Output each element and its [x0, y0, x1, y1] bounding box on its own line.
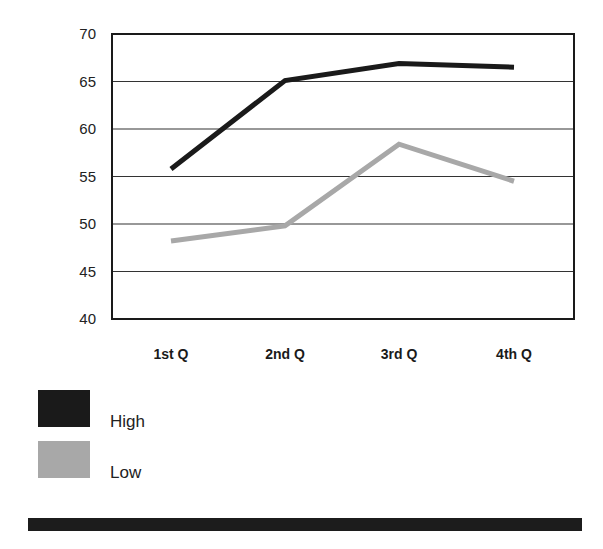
y-tick-label: 65: [79, 73, 96, 90]
y-tick-label: 60: [79, 120, 96, 137]
y-tick-label: 50: [79, 215, 96, 232]
x-tick-label: 1st Q: [153, 346, 188, 362]
y-tick-label: 70: [79, 25, 96, 42]
y-tick-label: 55: [79, 168, 96, 185]
y-axis-ticks: 40455055606570: [79, 25, 96, 327]
y-tick-label: 45: [79, 263, 96, 280]
bottom-divider-bar: [28, 518, 582, 531]
x-tick-label: 2nd Q: [265, 346, 305, 362]
series-line-low: [171, 144, 514, 241]
legend-label-low: Low: [110, 463, 141, 483]
legend-swatch-low: [38, 441, 90, 478]
legend-swatch-high: [38, 390, 90, 427]
y-tick-label: 40: [79, 310, 96, 327]
legend-label-high: High: [110, 412, 145, 432]
x-tick-label: 4th Q: [496, 346, 532, 362]
x-axis-ticks: 1st Q2nd Q3rd Q4th Q: [153, 346, 532, 362]
series-lines: [171, 63, 514, 241]
series-line-high: [171, 63, 514, 168]
x-tick-label: 3rd Q: [381, 346, 418, 362]
line-chart: 40455055606570 1st Q2nd Q3rd Q4th Q: [0, 0, 603, 380]
